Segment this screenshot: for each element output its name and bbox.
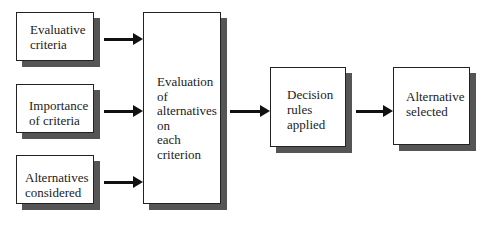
node-label: Evaluative criteria xyxy=(30,22,86,52)
node-label: Alternatives considered xyxy=(25,170,89,200)
arrow-icon xyxy=(104,38,134,41)
arrow-icon xyxy=(356,110,384,113)
node-alternative-selected: Alternative selected xyxy=(393,67,470,145)
arrow-icon xyxy=(104,181,134,184)
node-label: Decision rules applied xyxy=(287,87,333,132)
node-evaluation: Evaluation of alternatives on each crite… xyxy=(143,12,221,204)
node-alternatives-considered: Alternatives considered xyxy=(16,155,94,204)
node-label: Importance of criteria xyxy=(29,98,88,128)
node-evaluative-criteria: Evaluative criteria xyxy=(16,12,94,61)
node-importance-of-criteria: Importance of criteria xyxy=(16,84,94,133)
arrow-icon xyxy=(230,110,261,113)
node-label: Alternative selected xyxy=(406,89,464,119)
arrow-icon xyxy=(104,110,134,113)
node-label: Evaluation of alternatives on each crite… xyxy=(157,75,217,162)
node-decision-rules: Decision rules applied xyxy=(270,67,346,147)
